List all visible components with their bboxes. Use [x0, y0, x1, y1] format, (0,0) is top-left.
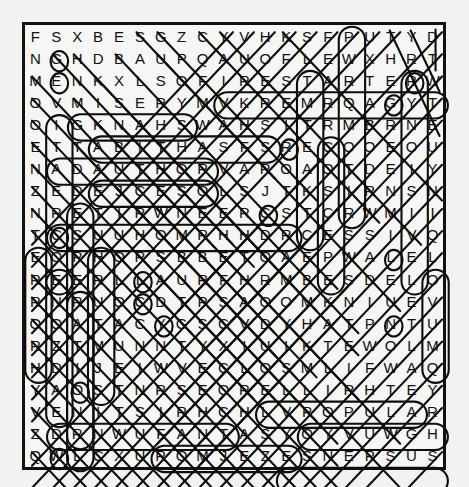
grid-cell[interactable]: U	[150, 47, 171, 69]
grid-cell[interactable]: A	[88, 135, 109, 157]
grid-cell[interactable]: S	[46, 25, 67, 47]
grid-cell[interactable]: V	[213, 91, 234, 113]
grid-cell[interactable]: X	[359, 47, 380, 69]
grid-cell[interactable]: L	[380, 401, 401, 423]
grid-cell[interactable]: L	[401, 334, 422, 356]
grid-cell[interactable]: P	[171, 47, 192, 69]
grid-cell[interactable]: O	[276, 290, 297, 312]
grid-cell[interactable]: P	[317, 246, 338, 268]
grid-cell[interactable]: R	[338, 69, 359, 91]
grid-cell[interactable]: R	[234, 379, 255, 401]
grid-cell[interactable]: Y	[422, 158, 443, 180]
grid-cell[interactable]: E	[380, 158, 401, 180]
grid-cell[interactable]: E	[88, 180, 109, 202]
grid-cell[interactable]: O	[25, 113, 46, 135]
grid-cell[interactable]: O	[255, 356, 276, 378]
grid-cell[interactable]: O	[359, 135, 380, 157]
grid-cell[interactable]: N	[25, 47, 46, 69]
grid-cell[interactable]: N	[401, 113, 422, 135]
grid-cell[interactable]: L	[380, 246, 401, 268]
grid-cell[interactable]: L	[297, 379, 318, 401]
grid-cell[interactable]: E	[380, 135, 401, 157]
grid-cell[interactable]: A	[213, 113, 234, 135]
grid-cell[interactable]: R	[359, 180, 380, 202]
grid-cell[interactable]: K	[234, 91, 255, 113]
grid-cell[interactable]: F	[213, 268, 234, 290]
grid-cell[interactable]: H	[129, 224, 150, 246]
grid-cell[interactable]: Y	[276, 423, 297, 445]
grid-cell[interactable]: G	[150, 25, 171, 47]
grid-cell[interactable]: I	[276, 334, 297, 356]
grid-cell[interactable]: M	[88, 334, 109, 356]
grid-cell[interactable]: S	[317, 180, 338, 202]
grid-cell[interactable]: U	[88, 224, 109, 246]
grid-cell[interactable]: B	[171, 246, 192, 268]
grid-cell[interactable]: U	[422, 312, 443, 334]
grid-cell[interactable]: E	[422, 113, 443, 135]
grid-cell[interactable]: X	[67, 25, 88, 47]
grid-cell[interactable]: N	[67, 401, 88, 423]
grid-cell[interactable]: L	[234, 356, 255, 378]
grid-cell[interactable]: N	[422, 180, 443, 202]
grid-cell[interactable]: E	[192, 379, 213, 401]
grid-cell[interactable]: A	[129, 47, 150, 69]
grid-cell[interactable]: L	[213, 180, 234, 202]
grid-cell[interactable]: T	[234, 246, 255, 268]
grid-cell[interactable]: U	[129, 445, 150, 467]
grid-cell[interactable]: A	[46, 158, 67, 180]
grid-cell[interactable]: P	[338, 401, 359, 423]
grid-cell[interactable]: R	[25, 268, 46, 290]
grid-cell[interactable]: H	[25, 356, 46, 378]
grid-cell[interactable]: R	[401, 69, 422, 91]
grid-cell[interactable]: E	[297, 135, 318, 157]
grid-cell[interactable]: U	[88, 290, 109, 312]
grid-cell[interactable]: K	[297, 334, 318, 356]
grid-cell[interactable]: K	[297, 180, 318, 202]
grid-cell[interactable]: R	[380, 113, 401, 135]
grid-cell[interactable]: E	[380, 268, 401, 290]
grid-cell[interactable]: S	[213, 135, 234, 157]
grid-cell[interactable]: I	[213, 69, 234, 91]
grid-cell[interactable]: R	[67, 423, 88, 445]
grid-cell[interactable]: E	[25, 135, 46, 157]
grid-cell[interactable]: T	[359, 69, 380, 91]
grid-cell[interactable]: A	[171, 423, 192, 445]
grid-cell[interactable]: S	[255, 423, 276, 445]
grid-cell[interactable]: R	[255, 158, 276, 180]
grid-cell[interactable]: U	[234, 47, 255, 69]
grid-cell[interactable]: R	[25, 290, 46, 312]
grid-cell[interactable]: I	[150, 401, 171, 423]
grid-cell[interactable]: R	[317, 91, 338, 113]
grid-cell[interactable]: E	[213, 246, 234, 268]
grid-cell[interactable]: E	[213, 202, 234, 224]
grid-cell[interactable]: E	[317, 224, 338, 246]
grid-cell[interactable]: S	[171, 379, 192, 401]
grid-cell[interactable]: S	[422, 445, 443, 467]
grid-cell[interactable]: N	[129, 334, 150, 356]
grid-cell[interactable]: I	[359, 290, 380, 312]
grid-cell[interactable]: C	[88, 445, 109, 467]
grid-cell[interactable]: E	[255, 379, 276, 401]
grid-cell[interactable]: T	[297, 202, 318, 224]
grid-cell[interactable]: M	[380, 202, 401, 224]
grid-cell[interactable]: W	[150, 202, 171, 224]
grid-cell[interactable]: O	[297, 423, 318, 445]
grid-cell[interactable]: S	[109, 91, 130, 113]
grid-cell[interactable]: S	[150, 69, 171, 91]
grid-cell[interactable]: E	[46, 69, 67, 91]
grid-cell[interactable]: A	[129, 113, 150, 135]
grid-cell[interactable]: H	[67, 47, 88, 69]
grid-cell[interactable]: C	[129, 180, 150, 202]
grid-cell[interactable]: H	[234, 401, 255, 423]
grid-cell[interactable]: R	[234, 69, 255, 91]
grid-cell[interactable]: M	[276, 268, 297, 290]
grid-cell[interactable]: T	[109, 401, 130, 423]
grid-cell[interactable]: V	[422, 290, 443, 312]
grid-cell[interactable]: O	[255, 246, 276, 268]
grid-cell[interactable]: E	[276, 91, 297, 113]
grid-cell[interactable]: L	[67, 445, 88, 467]
grid-cell[interactable]: Q	[192, 47, 213, 69]
grid-cell[interactable]: C	[255, 202, 276, 224]
grid-cell[interactable]: T	[317, 334, 338, 356]
grid-cell[interactable]: O	[338, 135, 359, 157]
